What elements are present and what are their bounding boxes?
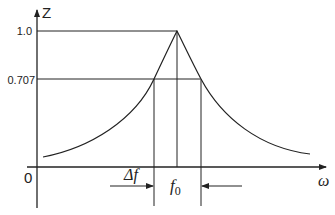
tick-label-1: 1.0 bbox=[17, 25, 32, 37]
omega-label: ω bbox=[318, 172, 329, 189]
f0-subscript: 0 bbox=[175, 184, 181, 198]
f0-label: f0 bbox=[170, 176, 181, 198]
delta-f-label: Δf bbox=[123, 166, 140, 184]
tick-label-0707: 0.707 bbox=[7, 74, 35, 86]
z-axis-label: Z bbox=[42, 4, 51, 21]
resonance-diagram: Z 1.0 0.707 0 ω Δf f0 bbox=[0, 0, 335, 215]
origin-label: 0 bbox=[24, 169, 32, 186]
